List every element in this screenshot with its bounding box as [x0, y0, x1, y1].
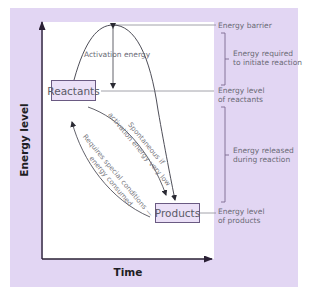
energy-barrier-label: Energy barrier [218, 21, 272, 30]
reactant-level-line2: of reactants [218, 95, 264, 104]
reactants-box: Reactants [51, 80, 96, 101]
reactant-level-label: Energy level of reactants [218, 86, 264, 104]
energy-released-line1: Energy released [233, 146, 294, 155]
x-axis-label: Time [114, 266, 143, 278]
activation-energy-label: Activation energy [84, 50, 150, 59]
energy-released-line2: during reaction [233, 155, 294, 164]
bracket-energy-required [221, 33, 229, 85]
energy-required-label: Energy required to initiate reaction [233, 49, 302, 67]
product-level-line1: Energy level [218, 207, 264, 216]
product-level-line2: of products [218, 216, 264, 225]
energy-required-line1: Energy required [233, 49, 302, 58]
bracket-energy-released [221, 107, 229, 202]
y-axis-label: Energy level [18, 103, 30, 176]
energy-released-label: Energy released during reaction [233, 146, 294, 164]
energy-required-line2: to initiate reaction [233, 58, 302, 67]
products-box: Products [155, 203, 200, 223]
product-level-label: Energy level of products [218, 207, 264, 225]
reactant-level-line1: Energy level [218, 86, 264, 95]
